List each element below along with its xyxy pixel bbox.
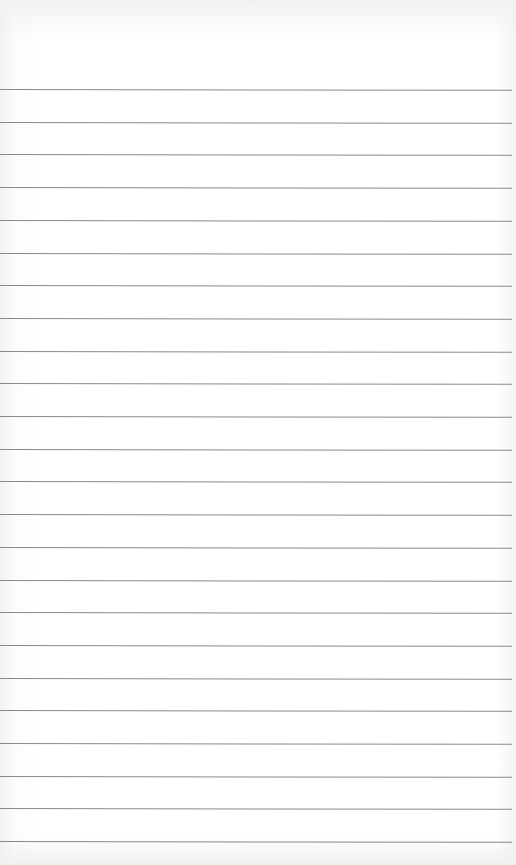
lined-paper-sheet bbox=[0, 0, 516, 865]
bottom-shadow bbox=[0, 835, 516, 865]
top-shadow bbox=[0, 0, 516, 40]
ruled-line bbox=[0, 253, 512, 255]
ruled-line bbox=[0, 580, 512, 582]
